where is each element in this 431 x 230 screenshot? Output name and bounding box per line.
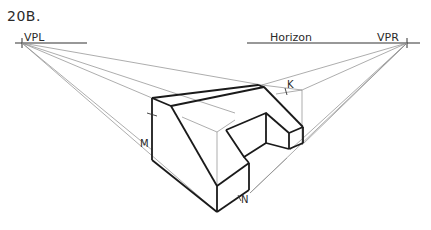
vpl-construction-lines (22, 43, 262, 212)
vanishing-point-right-label: VPR (377, 32, 399, 43)
point-label-m: M (140, 139, 149, 149)
point-label-n: N (241, 195, 248, 205)
perspective-diagram (0, 0, 431, 230)
point-label-k: K (287, 80, 294, 90)
figure-title: 20B. (7, 9, 41, 23)
object-outline (152, 85, 303, 212)
vanishing-point-left-label: VPL (24, 32, 44, 43)
horizon-label: Horizon (270, 32, 312, 43)
